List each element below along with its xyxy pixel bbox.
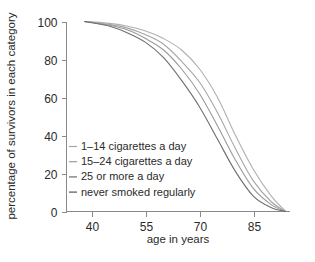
x-tick-label: 55 bbox=[140, 220, 154, 234]
series-line bbox=[84, 22, 285, 212]
series-line bbox=[84, 22, 285, 212]
x-axis-ticks: 40557085 bbox=[86, 212, 262, 234]
axes-group bbox=[67, 22, 290, 212]
y-tick-label: 0 bbox=[51, 206, 58, 220]
legend-label-0: 1–14 cigarettes a day bbox=[81, 140, 187, 152]
y-axis-title: percentage of survivors in each category bbox=[5, 12, 17, 219]
y-tick-label: 100 bbox=[37, 16, 57, 30]
x-tick-label: 70 bbox=[194, 220, 208, 234]
chart-legend: 1–14 cigarettes a day15–24 cigarettes a … bbox=[69, 140, 196, 198]
series-line bbox=[84, 22, 285, 212]
legend-label-3: never smoked regularly bbox=[81, 186, 196, 198]
y-axis-ticks: 020406080100 bbox=[37, 16, 66, 220]
data-series-group bbox=[84, 22, 285, 212]
y-tick-label: 20 bbox=[44, 168, 58, 182]
x-tick-label: 40 bbox=[86, 220, 100, 234]
series-line bbox=[84, 22, 285, 212]
y-tick-label: 60 bbox=[44, 92, 58, 106]
y-tick-label: 40 bbox=[44, 130, 58, 144]
legend-label-2: 25 or more a day bbox=[81, 170, 165, 182]
x-axis-title: age in years bbox=[147, 233, 210, 245]
legend-label-1: 15–24 cigarettes a day bbox=[81, 155, 193, 167]
x-tick-label: 85 bbox=[248, 220, 262, 234]
survival-curve-chart: 020406080100 40557085 age in years perce… bbox=[0, 0, 315, 262]
y-tick-label: 80 bbox=[44, 54, 58, 68]
chart-canvas: 020406080100 40557085 age in years perce… bbox=[0, 0, 315, 262]
